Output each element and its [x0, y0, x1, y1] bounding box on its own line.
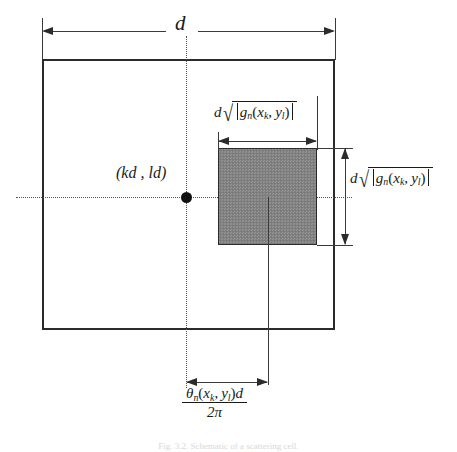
top-dimension-arrow-left: [42, 27, 53, 35]
offset-arrow-right: [257, 378, 268, 386]
top-dimension-extension-left: [42, 18, 43, 60]
cell-width-extension-right: [317, 96, 318, 150]
offset-denominator: 2π: [182, 402, 247, 420]
offset-numerator: θn(xk, yl)d: [182, 386, 247, 402]
top-dimension-arrow-right: [324, 27, 335, 35]
offset-label: θn(xk, yl)d 2π: [182, 386, 247, 420]
top-dimension-line-left: [44, 31, 166, 32]
cell-height-arrow-top: [341, 148, 349, 159]
cell-height-radical: √gn(xk, yl): [358, 167, 433, 192]
cell-height-extension-bottom: [317, 245, 353, 246]
overall-width-label: d: [175, 13, 186, 34]
scattering-cell-diagram: d (kd , ld) d√gn(xk, yl) d√gn(xk, yl) θn…: [0, 0, 457, 452]
vertical-center-dotted-line: [186, 36, 187, 388]
cell-center-point-marker: [181, 192, 192, 203]
cell-height-dimension-line: [345, 149, 346, 244]
cell-height-label: d√gn(xk, yl): [350, 167, 433, 192]
cell-width-label: d√gn(xk, yl): [214, 101, 297, 126]
cell-width-radical: √gn(xk, yl): [222, 101, 297, 126]
offset-fraction: θn(xk, yl)d 2π: [182, 386, 247, 420]
center-point-label: (kd , ld): [116, 165, 166, 181]
cell-width-arrow-right: [306, 137, 317, 145]
offset-dimension-line: [187, 382, 267, 383]
top-dimension-extension-right: [335, 18, 336, 60]
cell-width-arrow-left: [218, 137, 229, 145]
cell-height-arrow-bottom: [341, 234, 349, 245]
figure-caption: Fig. 3.2. Schematic of a scattering cell…: [0, 441, 457, 452]
cell-width-dimension-line: [219, 141, 316, 142]
offset-extension-right: [268, 197, 269, 385]
top-dimension-line-right: [198, 31, 333, 32]
